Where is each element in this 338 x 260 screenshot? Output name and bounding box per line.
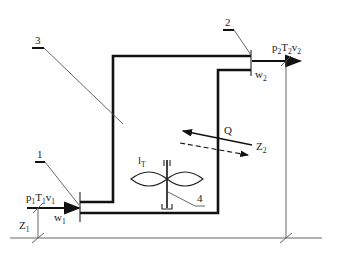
callout-4-label: 4 <box>197 192 203 204</box>
z2-label: Z2 <box>256 140 267 155</box>
z1-label: Z1 <box>19 219 30 234</box>
impeller-blade-right <box>167 172 203 186</box>
impeller-blade-left <box>131 172 167 186</box>
diagram-canvas: 1 2 3 4 lT Q Z2 p1T1v1 w1 Z1 p2T2v2 w2 <box>0 0 338 260</box>
callout-4-leader <box>168 192 195 206</box>
vessel-inner-wall <box>80 70 251 213</box>
callout-2-leader <box>234 30 251 55</box>
callout-1-label: 1 <box>37 148 43 160</box>
work-label: lT <box>138 154 146 169</box>
dashed-flow-arrow <box>180 143 248 155</box>
heat-q-label: Q <box>224 124 232 136</box>
inlet-velocity-label: w1 <box>54 211 66 226</box>
callout-2-label: 2 <box>225 16 231 28</box>
inlet-state-label: p1T1v1 <box>26 191 55 206</box>
callout-3-label: 3 <box>35 34 41 46</box>
outlet-velocity-label: w2 <box>255 68 267 83</box>
callout-3-leader <box>44 48 123 124</box>
outlet-state-label: p2T2v2 <box>272 41 301 56</box>
